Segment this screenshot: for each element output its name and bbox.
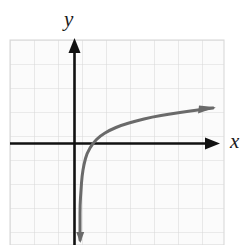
x-axis-label: x	[230, 131, 239, 152]
coordinate-plane-figure	[0, 0, 251, 245]
y-axis-label: y	[64, 9, 73, 30]
